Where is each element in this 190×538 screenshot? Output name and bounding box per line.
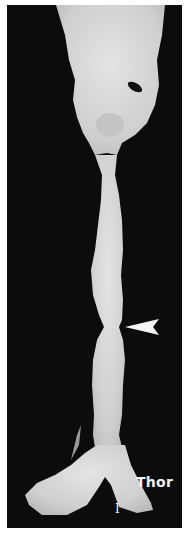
airway-rendering bbox=[7, 5, 182, 528]
trachea-shape bbox=[91, 155, 125, 460]
marker-label: I bbox=[115, 502, 120, 516]
region-label: Thor bbox=[136, 474, 173, 490]
arrowhead-icon bbox=[125, 319, 159, 335]
bronchi-shape bbox=[25, 445, 153, 515]
rendered-image-panel: Thor I bbox=[7, 5, 182, 528]
